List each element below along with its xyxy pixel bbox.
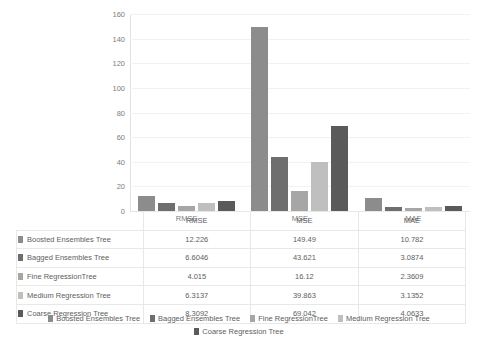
table-column-header-rmse: RMSE	[143, 212, 251, 231]
legend-item[interactable]: Medium Regression Tree	[338, 314, 430, 323]
data-table: RMSEMSEMAE Boosted Ensembles Tree12.2261…	[16, 211, 466, 324]
table-body: Boosted Ensembles Tree12.226149.4910.782…	[17, 230, 466, 323]
bar-group-rmse: RMSE	[130, 14, 243, 211]
table-row-label-cell: Bagged Ensembles Tree	[17, 249, 144, 268]
series-name: Bagged Ensembles Tree	[27, 253, 109, 262]
y-axis-tick-100: 100	[112, 83, 125, 92]
bar	[271, 157, 288, 211]
table-column-header-mae: MAE	[358, 212, 466, 231]
table-corner-cell	[17, 212, 144, 231]
legend-item[interactable]: Fine RegressionTree	[250, 314, 328, 323]
table-cell-mae: 3.1352	[358, 286, 466, 305]
legend-item[interactable]: Bagged Ensembles Tree	[150, 314, 240, 323]
series-color-swatch-icon	[18, 292, 23, 299]
series-name: Fine RegressionTree	[27, 272, 97, 281]
legend-item[interactable]: Boosted Ensembles Tree	[48, 314, 140, 323]
y-axis-tick-60: 60	[117, 133, 125, 142]
bar	[198, 203, 215, 211]
bar	[218, 201, 235, 211]
legend-color-swatch-icon	[150, 315, 155, 322]
series-name: Medium Regression Tree	[27, 291, 111, 300]
series-color-swatch-icon	[18, 254, 23, 261]
legend-label: Bagged Ensembles Tree	[158, 314, 240, 323]
table-row: Fine RegressionTree4.01516.122.3609	[17, 267, 466, 286]
legend-label: Fine RegressionTree	[258, 314, 328, 323]
bar	[158, 203, 175, 211]
legend-label: Medium Regression Tree	[346, 314, 430, 323]
y-axis-tick-120: 120	[112, 59, 125, 68]
table-row: Medium Regression Tree6.313739.8633.1352	[17, 286, 466, 305]
legend-label: Boosted Ensembles Tree	[56, 314, 140, 323]
table-header-row: RMSEMSEMAE	[17, 212, 466, 231]
legend-color-swatch-icon	[338, 315, 343, 322]
bar	[331, 126, 348, 211]
table-cell-mse: 16.12	[251, 267, 359, 286]
table-cell-mse: 43.621	[251, 249, 359, 268]
bar-groups: RMSEMSEMAE	[130, 14, 470, 211]
table-cell-rmse: 12.226	[143, 230, 251, 249]
table-cell-rmse: 6.6046	[143, 249, 251, 268]
y-axis-tick-20: 20	[117, 182, 125, 191]
table-cell-mae: 10.782	[358, 230, 466, 249]
y-axis-tick-160: 160	[112, 10, 125, 19]
table-cell-rmse: 6.3137	[143, 286, 251, 305]
legend-item[interactable]: Coarse Regression Tree	[194, 327, 283, 336]
regression-metrics-chart: 020406080100120140160 RMSEMSEMAE RMSEMSE…	[0, 0, 478, 353]
table-cell-mae: 3.0874	[358, 249, 466, 268]
table-row: Boosted Ensembles Tree12.226149.4910.782	[17, 230, 466, 249]
legend-color-swatch-icon	[250, 315, 255, 322]
series-color-swatch-icon	[18, 273, 23, 280]
bar-group-mse: MSE	[243, 14, 356, 211]
bar	[365, 198, 382, 211]
table-row-label-cell: Boosted Ensembles Tree	[17, 230, 144, 249]
table-row-label-cell: Fine RegressionTree	[17, 267, 144, 286]
chart-legend: Boosted Ensembles TreeBagged Ensembles T…	[16, 314, 462, 336]
table-column-header-mse: MSE	[251, 212, 359, 231]
table-cell-mse: 39.863	[251, 286, 359, 305]
legend-color-swatch-icon	[48, 315, 53, 322]
legend-label: Coarse Regression Tree	[202, 327, 283, 336]
bar	[291, 191, 308, 211]
table-row-label-cell: Medium Regression Tree	[17, 286, 144, 305]
bar-group-mae: MAE	[357, 14, 470, 211]
legend-color-swatch-icon	[194, 328, 199, 335]
series-color-swatch-icon	[18, 236, 23, 243]
table-cell-rmse: 4.015	[143, 267, 251, 286]
series-name: Boosted Ensembles Tree	[27, 235, 111, 244]
bar	[251, 27, 268, 211]
y-axis-tick-80: 80	[117, 108, 125, 117]
table-row: Bagged Ensembles Tree6.604643.6213.0874	[17, 249, 466, 268]
bar	[311, 162, 328, 211]
plot-area: 020406080100120140160 RMSEMSEMAE	[130, 14, 470, 211]
table-cell-mse: 149.49	[251, 230, 359, 249]
y-axis-tick-40: 40	[117, 157, 125, 166]
y-axis-tick-140: 140	[112, 34, 125, 43]
bar	[138, 196, 155, 211]
table-cell-mae: 2.3609	[358, 267, 466, 286]
